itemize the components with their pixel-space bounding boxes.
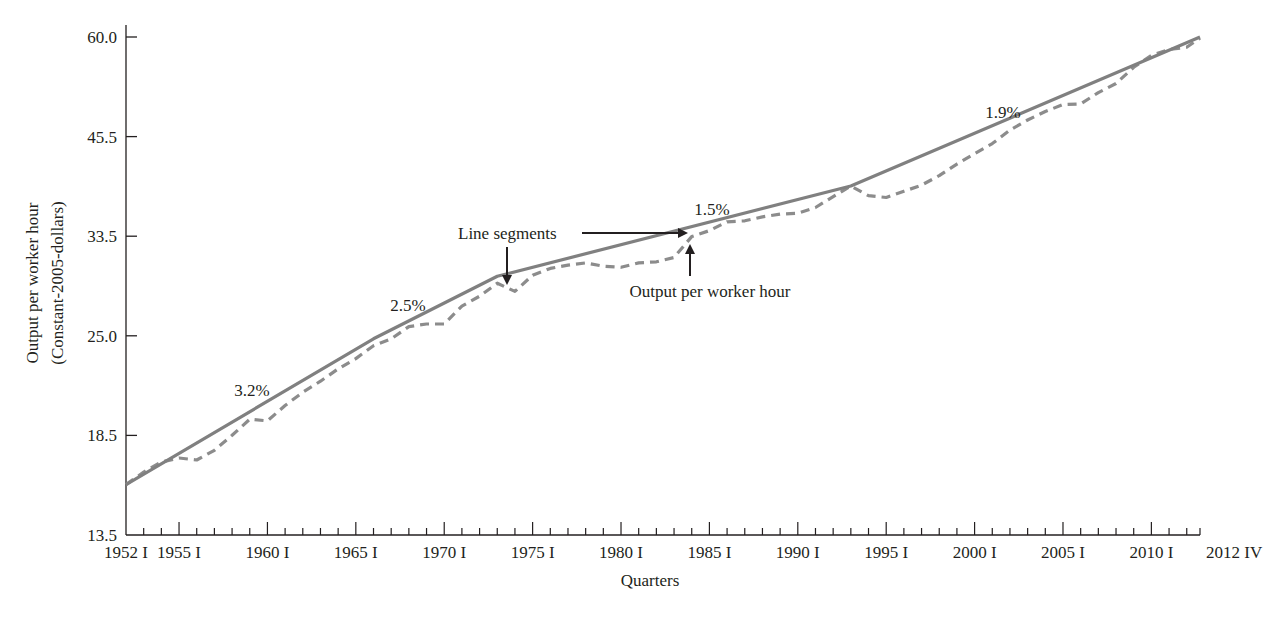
y-tick-label: 45.5 bbox=[87, 128, 117, 147]
x-tick-label: 1960 I bbox=[245, 543, 289, 562]
y-axis-title: Output per worker hour (Constant-2005-do… bbox=[23, 201, 67, 364]
x-tick-label: 1955 I bbox=[157, 543, 201, 562]
rate-label-1993-2012: 1.9% bbox=[985, 103, 1020, 122]
y-axis-title-line1: Output per worker hour bbox=[23, 202, 42, 363]
x-tick-label: 1970 I bbox=[422, 543, 466, 562]
y-tick-label: 60.0 bbox=[87, 28, 117, 47]
x-tick-label: 1952 I bbox=[104, 543, 148, 562]
line-segments-annotation: Line segments bbox=[458, 224, 557, 243]
y-tick-label: 25.0 bbox=[87, 327, 117, 346]
rate-label-1966-1973: 2.5% bbox=[390, 296, 425, 315]
x-tick-label: 1995 I bbox=[864, 543, 908, 562]
x-tick-label: 1990 I bbox=[776, 543, 820, 562]
y-tick-label: 18.5 bbox=[87, 426, 117, 445]
line-segments-line bbox=[126, 37, 1200, 485]
rate-label-1973-1993: 1.5% bbox=[694, 200, 729, 219]
x-tick-label: 1980 I bbox=[599, 543, 643, 562]
y-axis-title-line2: (Constant-2005-dollars) bbox=[48, 201, 67, 364]
x-tick-label: 2000 I bbox=[953, 543, 997, 562]
x-tick-label: 2010 I bbox=[1129, 543, 1173, 562]
x-tick-label: 1975 I bbox=[511, 543, 555, 562]
x-ticks: 1952 I1955 I1960 I1965 I1970 I1975 I1980… bbox=[104, 522, 1263, 562]
y-ticks: 13.518.525.033.545.560.0 bbox=[87, 28, 137, 545]
x-tick-label: 2005 I bbox=[1041, 543, 1085, 562]
rate-label-1952-1966: 3.2% bbox=[234, 381, 269, 400]
y-axis: 13.518.525.033.545.560.0 bbox=[87, 25, 137, 545]
chart-canvas: 13.518.525.033.545.560.0 1952 I1955 I196… bbox=[0, 0, 1284, 622]
x-tick-label: 1965 I bbox=[334, 543, 378, 562]
output-per-worker-hour-annotation: Output per worker hour bbox=[630, 282, 791, 301]
y-tick-label: 33.5 bbox=[87, 227, 117, 246]
x-tick-label: 1985 I bbox=[687, 543, 731, 562]
x-axis-title: Quarters bbox=[621, 571, 680, 590]
x-tick-label: 2012 IV bbox=[1206, 543, 1263, 562]
x-axis: 1952 I1955 I1960 I1965 I1970 I1975 I1980… bbox=[104, 522, 1263, 562]
